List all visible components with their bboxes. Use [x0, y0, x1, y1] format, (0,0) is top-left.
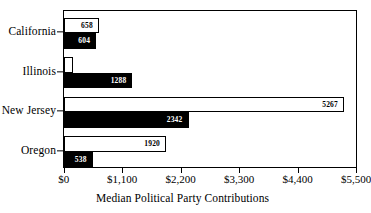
bar-group-oregon: 1920538 [64, 136, 356, 167]
bar-group-california: 658604 [64, 18, 356, 49]
x-tick-label: $0 [58, 174, 69, 185]
bar-group-new-jersey: 52672342 [64, 97, 356, 128]
category-label-oregon: Oregon [21, 145, 56, 157]
plot-area: 6586041288526723421920538 [63, 10, 357, 168]
category-axis-labels: California Illinois New Jersey Oregon [0, 10, 62, 168]
category-label-california: California [8, 26, 56, 38]
category-label-illinois: Illinois [23, 66, 56, 78]
bar-california-upper: 658 [64, 18, 99, 34]
category-label-new-jersey: New Jersey [2, 105, 56, 117]
bars-layer: 6586041288526723421920538 [64, 11, 356, 167]
bar-value-label: 2342 [167, 116, 188, 124]
x-axis-title: Median Political Party Contributions [0, 193, 365, 205]
x-tick-label: $4,400 [282, 174, 312, 185]
x-tick-label: $2,200 [165, 174, 195, 185]
bar-value-label: 658 [81, 22, 98, 30]
bar-oregon-lower: 538 [64, 152, 93, 168]
bar-value-label: 538 [75, 156, 92, 164]
bar-value-label: 604 [78, 37, 95, 45]
bar-illinois-upper [64, 57, 73, 73]
bar-california-lower: 604 [64, 33, 96, 49]
bar-value-label: 1288 [111, 77, 132, 85]
bar-value-label: 5267 [322, 101, 343, 109]
x-tick-label: $5,500 [341, 174, 371, 185]
x-tick-label: $1,100 [107, 174, 137, 185]
bar-oregon-upper: 1920 [64, 136, 166, 152]
bar-new-jersey-upper: 5267 [64, 97, 344, 113]
bar-illinois-lower: 1288 [64, 73, 132, 89]
bar-group-illinois: 1288 [64, 57, 356, 88]
bar-value-label: 1920 [144, 140, 165, 148]
x-tick-label: $3,300 [224, 174, 254, 185]
bar-new-jersey-lower: 2342 [64, 112, 189, 128]
